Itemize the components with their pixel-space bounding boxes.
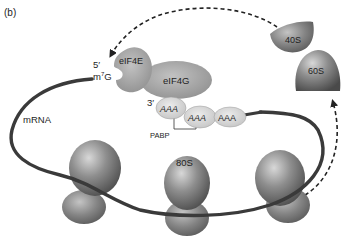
label-pabp: PABP bbox=[150, 131, 169, 140]
cap-g: G bbox=[104, 71, 111, 82]
poly-a-text-2: AAA bbox=[187, 113, 206, 123]
label-3-prime: 3′ bbox=[147, 97, 154, 108]
label-40s: 40S bbox=[285, 35, 301, 45]
poly-a-tail-link bbox=[244, 112, 262, 115]
pabp-1: AAA bbox=[156, 97, 186, 119]
label-5-prime: 5′ bbox=[93, 59, 100, 70]
diagram-canvas: (b) 40S bbox=[0, 0, 346, 240]
svg-text:m7G: m7G bbox=[93, 71, 112, 82]
label-80s: 80S bbox=[176, 157, 193, 168]
translation-cycle-diagram: (b) 40S bbox=[0, 0, 346, 240]
poly-a-text-1: AAA bbox=[159, 104, 178, 114]
ribosome-80s-left bbox=[62, 140, 121, 224]
label-eif4g: eIF4G bbox=[163, 75, 189, 86]
panel-label: (b) bbox=[4, 7, 16, 18]
label-eif4e: eIF4E bbox=[119, 56, 143, 66]
poly-a-text-3: AAA bbox=[218, 113, 236, 123]
label-m7g-cap: m7G bbox=[93, 71, 112, 82]
label-mrna: mRNA bbox=[23, 114, 52, 125]
large-subunit bbox=[255, 150, 305, 206]
ribosome-80s-middle bbox=[164, 156, 210, 236]
pabp-3: AAA bbox=[214, 107, 246, 127]
cap-m: m bbox=[93, 71, 101, 82]
pabp-2: AAA bbox=[184, 106, 216, 128]
subunit-60s: 60S bbox=[295, 50, 340, 91]
label-60s: 60S bbox=[308, 66, 324, 76]
